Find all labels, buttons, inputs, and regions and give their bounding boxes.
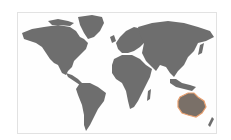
world-map[interactable] — [18, 13, 216, 133]
south-america[interactable] — [76, 83, 106, 131]
indonesia[interactable] — [170, 79, 196, 91]
central-america[interactable] — [66, 73, 82, 85]
madagascar[interactable] — [147, 89, 151, 101]
north-america[interactable] — [22, 25, 88, 75]
australia[interactable] — [178, 93, 206, 117]
world-map-frame — [17, 12, 217, 134]
arctic-islands[interactable] — [48, 19, 74, 26]
united-kingdom[interactable] — [110, 35, 116, 43]
japan[interactable] — [198, 43, 204, 55]
new-zealand[interactable] — [208, 117, 214, 127]
greenland[interactable] — [78, 15, 104, 39]
africa[interactable] — [112, 55, 152, 109]
